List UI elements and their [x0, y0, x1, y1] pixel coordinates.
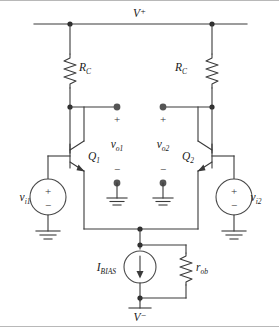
- vo1-plus-sign: +: [114, 113, 120, 125]
- left-collector-branch: [64, 24, 76, 153]
- ground-vi1: [36, 231, 60, 239]
- output-port-vo1: + −: [107, 104, 127, 205]
- supply-terminal-negative: [129, 298, 151, 308]
- ibias-label: IBIAS: [96, 261, 117, 276]
- resistor-rc-right: [206, 54, 218, 88]
- supply-positive-label: V+: [133, 6, 146, 20]
- vo2-plus-sign: +: [160, 113, 166, 125]
- resistor-rob-label: rob: [196, 261, 208, 276]
- resistor-rob: [180, 253, 192, 285]
- resistor-rc-left-label: RC: [78, 61, 92, 76]
- transistor-q1-label: Q1: [88, 150, 100, 165]
- terminal-vo2-positive: [160, 104, 167, 111]
- vi2-plus-sign: +: [231, 185, 237, 197]
- ground-vi2: [222, 231, 246, 239]
- input-vi2-label: vi2: [251, 191, 262, 206]
- resistor-rc-right-label: RC: [174, 61, 188, 76]
- circuit-diagram-figure: V+ RC: [0, 0, 279, 327]
- vi1-minus-sign: −: [45, 199, 51, 211]
- supply-rail-positive: [34, 21, 247, 26]
- right-collector-branch: [206, 24, 218, 153]
- vi1-plus-sign: +: [45, 185, 51, 197]
- vo1-minus-sign: −: [114, 163, 120, 175]
- terminal-vo1-positive: [114, 104, 121, 111]
- output-port-vo2: + −: [153, 104, 173, 205]
- emitter-arrow-q1: [77, 165, 85, 172]
- supply-negative-label: V−: [133, 310, 146, 324]
- output-vo2-label: vo2: [157, 138, 170, 153]
- current-source-ibias: [124, 251, 156, 301]
- ground-vo2: [153, 198, 173, 205]
- transistor-q2-label: Q2: [182, 150, 194, 165]
- output-vo1-label: vo1: [111, 138, 124, 153]
- input-vi1-label: vi1: [20, 191, 31, 206]
- resistor-rc-left: [64, 54, 76, 88]
- common-emitter-node: [84, 226, 198, 249]
- emitter-arrow-q2: [198, 165, 206, 172]
- voltage-source-vi1: + −: [30, 156, 66, 239]
- ground-vo1: [107, 198, 127, 205]
- vo2-minus-sign: −: [160, 163, 166, 175]
- vi2-minus-sign: −: [231, 199, 237, 211]
- voltage-source-vi2: + −: [216, 156, 252, 239]
